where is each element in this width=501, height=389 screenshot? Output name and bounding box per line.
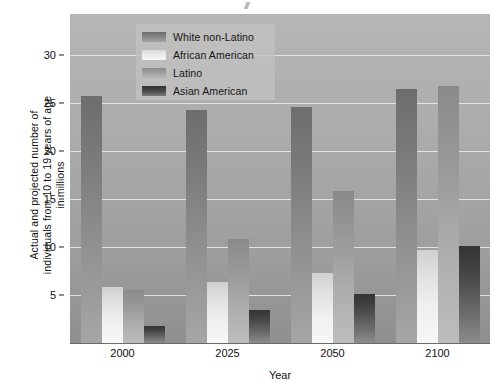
- plot-area: White non-LatinoAfrican AmericanLatinoAs…: [70, 14, 490, 343]
- legend-item-label: African American: [173, 49, 254, 61]
- y-tick-label: 30: [44, 49, 56, 61]
- y-tick-label: 20: [44, 145, 56, 157]
- bar-chart-figure: Actual and projected number of individua…: [0, 0, 501, 389]
- legend-swatch-icon: [142, 50, 166, 60]
- legend-swatch-icon: [142, 68, 166, 78]
- bar-2100-white-non-latino: [396, 89, 417, 343]
- x-axis-line: [70, 343, 490, 344]
- bars-layer: [70, 14, 490, 343]
- legend-item-asian-american: Asian American: [136, 82, 275, 99]
- bar-2050-african-american: [312, 273, 333, 343]
- x-axis-tick-labels: 2000202520502100: [70, 347, 490, 365]
- legend-item-latino: Latino: [136, 64, 275, 81]
- y-tick-mark: [59, 151, 64, 152]
- x-tick-label: 2100: [425, 347, 449, 359]
- y-tick-mark: [59, 55, 64, 56]
- scan-artifact: [244, 2, 251, 9]
- legend-item-label: Asian American: [173, 85, 247, 97]
- bar-2050-asian-american: [354, 294, 375, 343]
- x-tick-label: 2025: [215, 347, 239, 359]
- y-tick-mark: [59, 103, 64, 104]
- x-tick-label: 2050: [320, 347, 344, 359]
- y-tick-mark: [59, 295, 64, 296]
- bar-2025-white-non-latino: [186, 110, 207, 343]
- bar-2050-white-non-latino: [291, 107, 312, 343]
- y-tick-label: 15: [44, 193, 56, 205]
- y-axis-tick-labels: 51015202530: [30, 14, 64, 343]
- bar-2000-asian-american: [144, 326, 165, 343]
- chart-legend: White non-LatinoAfrican AmericanLatinoAs…: [136, 24, 275, 100]
- bar-2000-african-american: [102, 287, 123, 343]
- legend-swatch-icon: [142, 32, 166, 42]
- y-tick-mark: [59, 247, 64, 248]
- bar-2100-african-american: [417, 250, 438, 343]
- y-tick-label: 10: [44, 241, 56, 253]
- y-tick-mark: [59, 199, 64, 200]
- bar-2000-white-non-latino: [81, 96, 102, 343]
- bar-2100-asian-american: [459, 246, 480, 343]
- bar-2025-african-american: [207, 282, 228, 343]
- bar-2100-latino: [438, 86, 459, 343]
- legend-swatch-icon: [142, 86, 166, 96]
- legend-item-african-american: African American: [136, 46, 275, 63]
- bar-2025-latino: [228, 239, 249, 343]
- legend-item-label: Latino: [173, 67, 202, 79]
- bar-2050-latino: [333, 191, 354, 343]
- bar-2025-asian-american: [249, 310, 270, 343]
- y-tick-label: 25: [44, 97, 56, 109]
- legend-item-label: White non-Latino: [173, 31, 254, 43]
- legend-item-white-non-latino: White non-Latino: [136, 28, 275, 45]
- bar-2000-latino: [123, 290, 144, 343]
- x-tick-label: 2000: [110, 347, 134, 359]
- y-tick-label: 5: [50, 289, 56, 301]
- x-axis-title: Year: [70, 369, 490, 381]
